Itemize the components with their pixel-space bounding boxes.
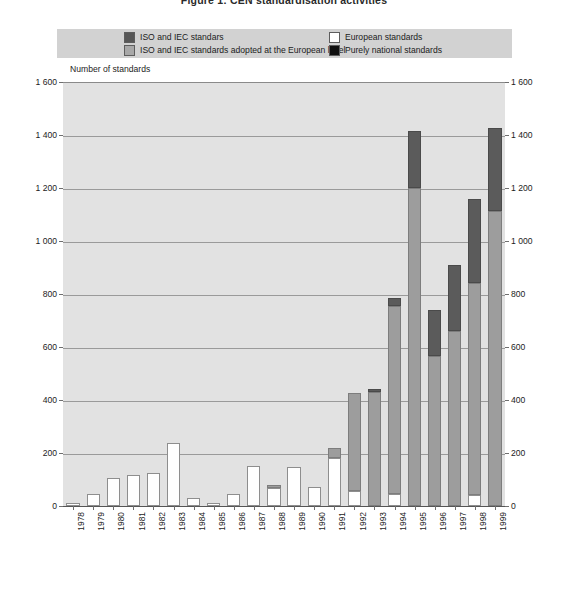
y-axis-tick [505, 135, 509, 136]
bar-segment-european-standards [247, 466, 260, 506]
y-axis-tick [505, 347, 509, 348]
x-axis-tick [274, 506, 275, 510]
y-axis-title: Number of standards [70, 64, 150, 74]
y-axis-label: 1 200 [511, 184, 533, 193]
bar-1993[interactable] [368, 389, 381, 506]
x-axis-tick [113, 506, 114, 510]
x-axis-tick [294, 506, 295, 510]
x-axis-label-1990: 1990 [318, 512, 327, 531]
bar-1990[interactable] [308, 487, 321, 506]
bar-segment-european-standards [127, 475, 140, 506]
x-axis-label-1988: 1988 [278, 512, 287, 531]
bar-segment-iso-and-iec-standars [448, 265, 461, 331]
x-axis-tick [133, 506, 134, 510]
x-axis-label-1997: 1997 [459, 512, 468, 531]
x-axis-label-1999: 1999 [499, 512, 508, 531]
x-axis-label-1996: 1996 [439, 512, 448, 531]
x-axis-label-1980: 1980 [117, 512, 126, 531]
bar-1980[interactable] [107, 478, 120, 506]
bar-1987[interactable] [247, 466, 260, 506]
x-axis-tick [234, 506, 235, 510]
bar-segment-iso-and-iec-standars [388, 298, 401, 306]
bar-segment-european-standards [227, 494, 240, 506]
legend-label-european: European standards [345, 33, 422, 42]
y-axis-label: 1 000 [35, 237, 57, 246]
bar-segment-iso-and-iec-standards-adopted-at-the-european-level [388, 306, 401, 494]
bar-1997[interactable] [448, 265, 461, 506]
bar-segment-iso-and-iec-standars [468, 199, 481, 284]
bar-segment-iso-and-iec-standars [428, 310, 441, 356]
bar-1999[interactable] [488, 128, 501, 506]
legend-swatch-iso-icon [124, 32, 135, 43]
x-axis-label-1985: 1985 [218, 512, 227, 531]
y-axis-label: 400 [511, 396, 525, 405]
y-axis-tick [59, 400, 63, 401]
x-axis-label-1994: 1994 [399, 512, 408, 531]
x-axis-tick [415, 506, 416, 510]
y-axis-label: 1 000 [511, 237, 533, 246]
legend-label-iso-eu: ISO and IEC standards adopted at the Eur… [140, 46, 345, 55]
bar-segment-european-standards [167, 443, 180, 506]
y-axis-label: 600 [511, 343, 525, 352]
bar-segment-european-standards [468, 495, 481, 506]
y-axis-label: 800 [511, 290, 525, 299]
bar-segment-european-standards [267, 488, 280, 506]
y-axis-tick [505, 400, 509, 401]
y-axis-tick [505, 241, 509, 242]
x-axis-tick [354, 506, 355, 510]
y-axis-tick [505, 82, 509, 83]
legend-item-iso: ISO and IEC standars [124, 31, 224, 44]
gridline [63, 242, 505, 243]
y-axis-label: 400 [43, 396, 57, 405]
bar-1991[interactable] [328, 448, 341, 506]
x-axis-tick [214, 506, 215, 510]
bar-segment-iso-and-iec-standards-adopted-at-the-european-level [448, 331, 461, 506]
x-axis-tick [314, 506, 315, 510]
y-axis-label: 0 [511, 502, 516, 511]
bar-1984[interactable] [187, 498, 200, 506]
bar-1982[interactable] [147, 473, 160, 506]
x-axis-label-1991: 1991 [338, 512, 347, 531]
bar-1981[interactable] [127, 475, 140, 506]
bar-1989[interactable] [287, 467, 300, 506]
bar-1986[interactable] [227, 494, 240, 506]
y-axis-label: 1 200 [35, 184, 57, 193]
bar-1988[interactable] [267, 485, 280, 506]
bar-segment-european-standards [328, 458, 341, 506]
x-axis-label-1998: 1998 [479, 512, 488, 531]
bar-segment-european-standards [287, 467, 300, 506]
bar-segment-iso-and-iec-standards-adopted-at-the-european-level [468, 283, 481, 495]
bar-1983[interactable] [167, 443, 180, 506]
y-axis-label: 200 [511, 449, 525, 458]
y-axis-tick [59, 347, 63, 348]
x-axis-tick [374, 506, 375, 510]
y-axis-tick [505, 506, 509, 507]
bar-segment-european-standards [388, 494, 401, 506]
bar-segment-iso-and-iec-standars [488, 128, 501, 210]
legend-swatch-european-icon [329, 32, 340, 43]
bar-1994[interactable] [388, 298, 401, 506]
y-axis-tick [59, 294, 63, 295]
figure-title: Figure 1: CEN standardisation activities [0, 0, 568, 6]
legend-swatch-iso-eu-icon [124, 45, 135, 56]
bar-segment-iso-and-iec-standards-adopted-at-the-european-level [348, 393, 361, 491]
bar-1998[interactable] [468, 199, 481, 506]
bar-1979[interactable] [87, 494, 100, 506]
y-axis-label: 600 [43, 343, 57, 352]
x-axis-label-1989: 1989 [298, 512, 307, 531]
x-axis-label-1978: 1978 [77, 512, 86, 531]
bar-1996[interactable] [428, 310, 441, 506]
bar-segment-iso-and-iec-standards-adopted-at-the-european-level [408, 188, 421, 506]
y-axis-label: 800 [43, 290, 57, 299]
bar-1992[interactable] [348, 393, 361, 506]
bar-1995[interactable] [408, 131, 421, 506]
x-axis-tick [174, 506, 175, 510]
bar-segment-iso-and-iec-standards-adopted-at-the-european-level [488, 211, 501, 506]
gridline [63, 136, 505, 137]
gridline [63, 295, 505, 296]
x-axis-tick [153, 506, 154, 510]
y-axis-tick [505, 188, 509, 189]
legend-item-national: Purely national standards [329, 44, 442, 57]
x-axis-tick [475, 506, 476, 510]
x-axis-tick [73, 506, 74, 510]
